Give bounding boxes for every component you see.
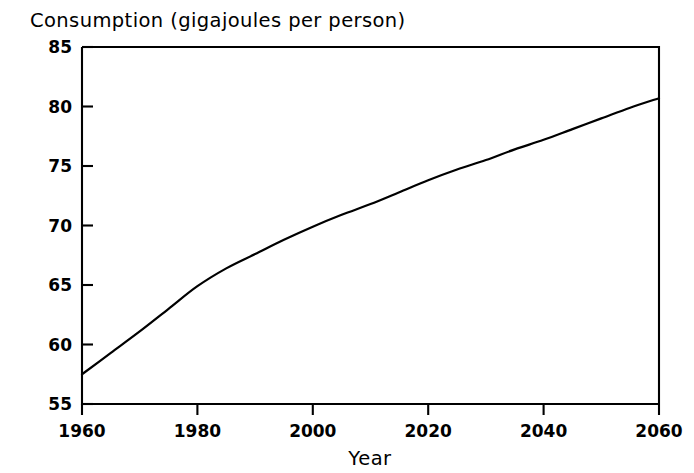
line-chart-plot: 85 80 75 70 65 60 55 1960 1980 2000 2020… <box>0 0 694 473</box>
x-tick-label: 1980 <box>174 421 221 441</box>
y-tick-label: 70 <box>48 216 72 236</box>
y-tick-label: 80 <box>48 97 72 117</box>
x-tick-marks <box>82 404 659 415</box>
x-tick-label: 1960 <box>58 421 105 441</box>
x-tick-label: 2020 <box>405 421 452 441</box>
x-tick-label: 2060 <box>635 421 682 441</box>
y-tick-label: 55 <box>48 394 72 414</box>
x-tick-label: 2040 <box>520 421 567 441</box>
consumption-line <box>82 98 659 374</box>
y-tick-label: 60 <box>48 335 72 355</box>
y-tick-marks <box>82 47 93 404</box>
x-tick-label: 2000 <box>289 421 336 441</box>
y-tick-label: 85 <box>48 37 72 57</box>
axis-frame-outer <box>82 47 659 404</box>
y-tick-label: 75 <box>48 156 72 176</box>
y-tick-labels: 85 80 75 70 65 60 55 <box>48 37 72 414</box>
axis-frame <box>82 47 659 404</box>
x-axis-title: Year <box>347 447 392 470</box>
x-tick-labels: 1960 1980 2000 2020 2040 2060 <box>58 421 682 441</box>
y-tick-label: 65 <box>48 275 72 295</box>
chart-figure: Consumption (gigajoules per person) <box>0 0 694 473</box>
